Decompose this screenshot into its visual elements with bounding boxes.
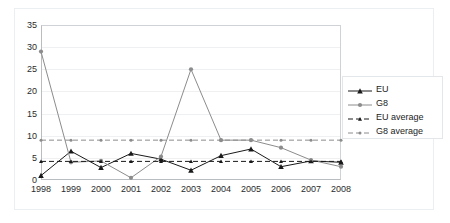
- data-point: [279, 146, 283, 150]
- x-axis-tick-label: 1999: [61, 183, 81, 195]
- x-axis-tick-label: 2008: [331, 183, 351, 195]
- data-point: [248, 146, 254, 151]
- legend-item-g8-average[interactable]: G8 average: [347, 124, 423, 138]
- legend-item-g8[interactable]: G8: [347, 96, 388, 110]
- data-point: [70, 139, 73, 142]
- chart-legend: EUG8EU averageG8 average: [342, 76, 443, 139]
- data-point: [220, 139, 223, 142]
- y-axis-tick-label: 35: [27, 21, 37, 30]
- y-axis-labels: 05101520253035: [14, 25, 37, 180]
- x-axis-tick-label: 2000: [91, 183, 111, 195]
- x-axis-tick-label: 2007: [301, 183, 321, 195]
- data-point: [340, 139, 343, 142]
- data-point: [159, 154, 163, 158]
- x-axis-tick-label: 2003: [181, 183, 201, 195]
- data-point: [189, 67, 193, 71]
- series-g8-average: [40, 139, 343, 142]
- data-point: [68, 148, 74, 153]
- y-axis-tick-label: 5: [32, 153, 37, 162]
- data-point: [160, 139, 163, 142]
- data-point: [98, 165, 104, 170]
- series-layer: [41, 25, 341, 180]
- legend-item-eu[interactable]: EU: [347, 82, 389, 96]
- y-axis-tick-label: 20: [27, 87, 37, 96]
- data-point: [339, 165, 343, 169]
- data-point: [40, 139, 43, 142]
- data-point: [100, 139, 103, 142]
- legend-label: EU average: [376, 112, 424, 122]
- data-point: [310, 139, 313, 142]
- data-point: [280, 139, 283, 142]
- x-axis-tick-label: 2005: [241, 183, 261, 195]
- data-point: [130, 139, 133, 142]
- data-point: [128, 151, 134, 156]
- data-point: [250, 139, 253, 142]
- chart-container: 05101520253035 1998199920002001200220032…: [0, 0, 450, 223]
- data-point: [190, 139, 193, 142]
- x-axis-tick-label: 2006: [271, 183, 291, 195]
- y-axis-tick-label: 25: [27, 65, 37, 74]
- series-eu-average: [39, 159, 343, 163]
- x-axis-tick-label: 2002: [151, 183, 171, 195]
- data-point: [39, 49, 43, 53]
- legend-swatch-icon: [347, 83, 373, 95]
- x-axis-tick-label: 1998: [31, 183, 51, 195]
- x-axis-tick-label: 2004: [211, 183, 231, 195]
- legend-item-eu-average[interactable]: EU average: [347, 110, 424, 124]
- legend-swatch-icon: [347, 111, 373, 123]
- x-axis-tick-label: 2001: [121, 183, 141, 195]
- y-axis-tick-label: 15: [27, 109, 37, 118]
- legend-label: EU: [376, 84, 389, 94]
- legend-swatch-icon: [347, 125, 373, 137]
- legend-swatch-icon: [347, 97, 373, 109]
- y-axis-tick-label: 30: [27, 43, 37, 52]
- x-axis-labels: 1998199920002001200220032004200520062007…: [41, 183, 341, 197]
- legend-label: G8: [376, 98, 388, 108]
- data-point: [129, 176, 133, 180]
- legend-label: G8 average: [376, 126, 423, 136]
- y-axis-tick-label: 10: [27, 131, 37, 140]
